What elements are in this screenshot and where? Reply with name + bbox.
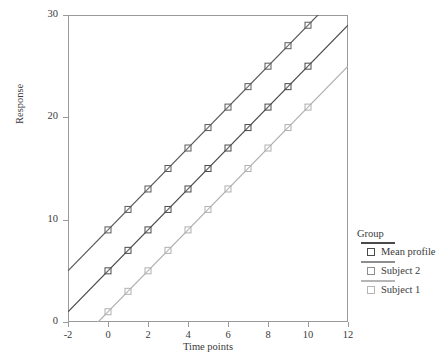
data-point-marker xyxy=(165,166,171,172)
plot-area xyxy=(68,15,348,322)
data-point-marker xyxy=(165,206,171,212)
y-axis-tick xyxy=(63,117,68,118)
data-point-marker xyxy=(245,84,251,90)
legend-marker-icon xyxy=(367,267,375,275)
data-point-marker xyxy=(185,186,191,192)
y-axis-tick-label: 20 xyxy=(32,111,58,121)
data-point-marker xyxy=(305,63,311,69)
x-axis-tick-label: -2 xyxy=(53,329,83,340)
y-axis-tick-label: 0 xyxy=(32,316,58,326)
chart-figure: 0102030 -2024681012 Response Time points… xyxy=(0,0,444,360)
legend-item[interactable]: Subject 1 xyxy=(357,280,443,296)
data-point-marker xyxy=(185,227,191,233)
data-point-marker xyxy=(265,63,271,69)
data-point-marker xyxy=(245,166,251,172)
legend-marker-icon xyxy=(367,248,375,256)
data-point-marker xyxy=(305,22,311,28)
data-point-marker xyxy=(285,84,291,90)
data-point-marker xyxy=(225,104,231,110)
y-axis-tick-label: 10 xyxy=(32,214,58,224)
legend-item-label: Subject 1 xyxy=(381,284,420,296)
y-axis-tick xyxy=(63,15,68,16)
legend-line-sample xyxy=(361,261,395,263)
legend-item[interactable]: Mean profile xyxy=(357,242,443,258)
x-axis-tick-label: 4 xyxy=(173,329,203,340)
x-axis-tick-label: 2 xyxy=(133,329,163,340)
y-axis-title: Response xyxy=(14,84,25,124)
data-point-marker xyxy=(225,186,231,192)
data-point-marker xyxy=(265,145,271,151)
data-point-marker xyxy=(305,104,311,110)
legend-line-sample xyxy=(361,242,395,244)
x-axis-tick xyxy=(268,322,269,327)
legend-entries: Mean profileSubject 2Subject 1 xyxy=(357,242,443,296)
data-point-marker xyxy=(245,125,251,131)
x-axis-tick xyxy=(348,322,349,327)
legend-item-label: Subject 2 xyxy=(381,265,420,277)
data-point-marker xyxy=(265,104,271,110)
x-axis-tick xyxy=(68,322,69,327)
data-point-marker xyxy=(145,227,151,233)
data-point-marker xyxy=(165,247,171,253)
x-axis-tick xyxy=(308,322,309,327)
x-axis-tick xyxy=(108,322,109,327)
data-point-marker xyxy=(205,166,211,172)
x-axis-tick xyxy=(148,322,149,327)
legend-item-label: Mean profile xyxy=(381,246,436,258)
x-axis-tick xyxy=(228,322,229,327)
x-axis-tick-label: 6 xyxy=(213,329,243,340)
legend-line-sample xyxy=(361,280,395,282)
legend-marker-icon xyxy=(367,286,375,294)
data-point-marker xyxy=(105,268,111,274)
y-axis-tick xyxy=(63,220,68,221)
y-axis-tick-label: 30 xyxy=(32,9,58,19)
x-axis-title: Time points xyxy=(68,341,348,352)
data-point-marker xyxy=(285,125,291,131)
data-point-marker xyxy=(185,145,191,151)
x-axis-tick-label: 0 xyxy=(93,329,123,340)
data-point-marker xyxy=(145,268,151,274)
data-point-marker xyxy=(225,145,231,151)
legend: Group Mean profileSubject 2Subject 1 xyxy=(357,228,443,298)
data-point-marker xyxy=(205,206,211,212)
legend-item[interactable]: Subject 2 xyxy=(357,261,443,277)
x-axis-tick-label: 8 xyxy=(253,329,283,340)
data-point-marker xyxy=(145,186,151,192)
x-axis-tick-label: 10 xyxy=(293,329,323,340)
x-axis-tick-label: 12 xyxy=(333,329,363,340)
legend-title: Group xyxy=(357,228,443,239)
data-point-marker xyxy=(205,125,211,131)
data-point-marker xyxy=(125,247,131,253)
data-point-marker xyxy=(105,227,111,233)
data-point-marker xyxy=(125,288,131,294)
data-point-marker xyxy=(125,206,131,212)
series-lines xyxy=(68,15,348,322)
x-axis-tick xyxy=(188,322,189,327)
data-point-marker xyxy=(285,43,291,49)
data-point-marker xyxy=(105,309,111,315)
